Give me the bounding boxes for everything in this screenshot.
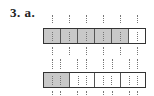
guide-dots (137, 59, 139, 69)
guide-dots (137, 15, 139, 23)
guide-dots (86, 91, 88, 95)
guide-dots (77, 91, 79, 95)
subdivision-dots (111, 76, 113, 85)
fraction-part (129, 29, 145, 43)
fraction-part (112, 29, 129, 43)
subdivision-dots (103, 76, 105, 85)
guide-dots (60, 91, 62, 95)
subdivision-dots (137, 76, 139, 85)
fraction-part (44, 29, 61, 43)
subdivision-dots (69, 32, 71, 41)
subdivision-dots (78, 76, 80, 85)
guide-dots (103, 91, 105, 95)
fraction-bar-fourths (43, 72, 146, 88)
guide-dots (69, 15, 71, 23)
subdivision-dots (86, 32, 88, 41)
fraction-part (95, 29, 112, 43)
guide-dots (86, 47, 88, 55)
dotted-guides-bottom-2 (43, 90, 146, 96)
guide-dots (77, 59, 79, 69)
dotted-guides-top-2 (43, 58, 146, 70)
guide-dots (129, 59, 131, 69)
dotted-guides-top-1 (43, 14, 146, 24)
guide-dots (129, 91, 131, 95)
guide-dots (112, 91, 114, 95)
subdivision-dots (129, 76, 131, 85)
guide-dots (103, 59, 105, 69)
guide-dots (112, 59, 114, 69)
fraction-bar-sixths (43, 28, 146, 44)
problem-label: 3. a. (10, 5, 35, 21)
fraction-part (61, 29, 78, 43)
guide-dots (120, 47, 122, 55)
fraction-part (70, 73, 96, 87)
subdivision-dots (137, 32, 139, 41)
fraction-part (121, 73, 146, 87)
fraction-part (44, 73, 70, 87)
guide-dots (137, 91, 139, 95)
guide-dots (52, 15, 54, 23)
guide-dots (86, 15, 88, 23)
subdivision-dots (52, 32, 54, 41)
guide-dots (86, 59, 88, 69)
subdivision-dots (103, 32, 105, 41)
subdivision-dots (120, 32, 122, 41)
subdivision-dots (60, 76, 62, 85)
guide-dots (103, 15, 105, 23)
fraction-part (78, 29, 95, 43)
guide-dots (69, 47, 71, 55)
subdivision-dots (86, 76, 88, 85)
guide-dots (60, 59, 62, 69)
dotted-guides-bottom-1 (43, 46, 146, 56)
guide-dots (52, 47, 54, 55)
subdivision-dots (52, 76, 54, 85)
guide-dots (52, 59, 54, 69)
guide-dots (103, 47, 105, 55)
guide-dots (120, 15, 122, 23)
guide-dots (137, 47, 139, 55)
fraction-part (95, 73, 121, 87)
guide-dots (52, 91, 54, 95)
